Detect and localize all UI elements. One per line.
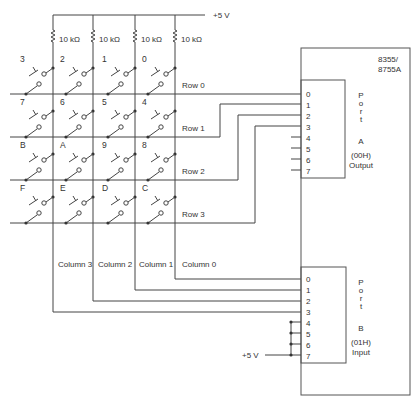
key-label: C xyxy=(142,183,148,193)
chip-name-line2: 8755A xyxy=(378,65,402,74)
key-label: 4 xyxy=(142,97,147,107)
resistor-label: 10 kΩ xyxy=(141,35,162,44)
key-label: 7 xyxy=(20,97,25,107)
svg-text:A: A xyxy=(358,137,364,146)
port-a-label: PortA(00H)Output xyxy=(349,91,374,170)
port-a-pins: 01234567 xyxy=(306,90,311,176)
keypad-schematic: +5 V 10 kΩ 10 kΩ 10 kΩ 10 kΩ Row 0 Row 1… xyxy=(0,0,420,406)
pin-number: 7 xyxy=(306,352,311,361)
column-label: Column 1 xyxy=(139,260,174,269)
key-switch xyxy=(106,109,136,138)
port-a-stubs xyxy=(291,137,301,170)
key-label: 6 xyxy=(60,97,65,107)
pin-number: 0 xyxy=(306,90,311,99)
key-switch xyxy=(64,152,94,181)
supply-label-bottom: +5 V xyxy=(242,351,259,360)
key-label: A xyxy=(60,140,66,150)
pin-number: 7 xyxy=(306,167,311,176)
key-label: 8 xyxy=(142,140,147,150)
key-switch xyxy=(106,195,136,224)
svg-text:t: t xyxy=(360,302,363,311)
pin-number: 6 xyxy=(306,341,311,350)
key-switch xyxy=(106,152,136,181)
column-return-wires xyxy=(53,240,301,312)
key-switch xyxy=(146,109,176,138)
pin-number: 6 xyxy=(306,156,311,165)
key-label: D xyxy=(102,183,108,193)
pin-number: 0 xyxy=(306,275,311,284)
pin-number: 4 xyxy=(306,134,311,143)
svg-text:B: B xyxy=(358,324,363,333)
key-label: B xyxy=(20,140,26,150)
key-switch xyxy=(24,195,54,224)
key-label: 3 xyxy=(20,54,25,64)
pin-number: 5 xyxy=(306,145,311,154)
svg-text:(00H): (00H) xyxy=(351,151,371,160)
port-b-label: PortB(01H)Input xyxy=(351,278,371,357)
key-label: 5 xyxy=(102,97,107,107)
svg-text:Input: Input xyxy=(352,348,371,357)
key-switches xyxy=(24,66,176,224)
key-label: F xyxy=(20,183,25,193)
key-label: 9 xyxy=(102,140,107,150)
key-switch xyxy=(106,66,136,95)
key-label: 2 xyxy=(60,54,65,64)
row-label: Row 3 xyxy=(182,210,205,219)
key-switch xyxy=(64,195,94,224)
key-switch xyxy=(24,109,54,138)
pin-number: 3 xyxy=(306,123,311,132)
port-b-pullup-tie xyxy=(265,320,301,356)
pin-number: 5 xyxy=(306,330,311,339)
row-label: Row 2 xyxy=(182,167,205,176)
pin-number: 1 xyxy=(306,286,311,295)
pin-number: 3 xyxy=(306,308,311,317)
row-label: Row 0 xyxy=(182,81,205,90)
chip-name-line1: 8355/ xyxy=(378,55,399,64)
key-switch xyxy=(146,152,176,181)
resistor-label: 10 kΩ xyxy=(181,35,202,44)
port-b-pins: 01234567 xyxy=(306,275,311,361)
key-switch xyxy=(146,66,176,95)
pin-number: 2 xyxy=(306,112,311,121)
pin-number: 2 xyxy=(306,297,311,306)
key-label: 1 xyxy=(102,54,107,64)
column-wires xyxy=(51,15,177,278)
column-label: Column 3 xyxy=(58,260,93,269)
pin-number: 4 xyxy=(306,319,311,328)
svg-text:(01H): (01H) xyxy=(351,338,371,347)
key-switch xyxy=(24,66,54,95)
column-label: Column 2 xyxy=(98,260,133,269)
row-label: Row 1 xyxy=(182,124,205,133)
key-switch xyxy=(146,195,176,224)
key-label: E xyxy=(60,183,66,193)
key-label: 0 xyxy=(142,54,147,64)
key-switch xyxy=(64,109,94,138)
svg-text:Output: Output xyxy=(349,161,374,170)
key-switch xyxy=(24,152,54,181)
svg-text:t: t xyxy=(360,115,363,124)
column-label: Column 0 xyxy=(182,260,217,269)
supply-label-top: +5 V xyxy=(213,11,230,20)
resistor-label: 10 kΩ xyxy=(59,35,80,44)
resistor-label: 10 kΩ xyxy=(99,35,120,44)
pin-number: 1 xyxy=(306,101,311,110)
key-switch xyxy=(64,66,94,95)
